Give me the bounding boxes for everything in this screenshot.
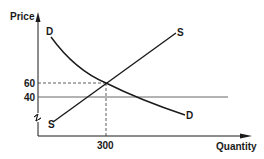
supply-label-bottom: S <box>48 119 55 130</box>
y-axis-arrow-icon <box>36 12 41 22</box>
x-axis-label: Quantity <box>216 141 257 152</box>
y-tick-40: 40 <box>24 92 36 103</box>
demand-label-top: D <box>46 26 53 37</box>
supply-label-top: S <box>177 27 184 38</box>
supply-curve <box>53 33 176 122</box>
y-tick-60: 60 <box>24 78 36 89</box>
x-tick-300: 300 <box>97 140 114 151</box>
x-axis-arrow-icon <box>240 134 252 139</box>
demand-curve <box>51 37 185 115</box>
y-axis-label: Price <box>10 11 35 22</box>
supply-demand-chart: Price Quantity 60 40 300 D D S S <box>0 0 264 159</box>
demand-label-bottom: D <box>186 110 193 121</box>
